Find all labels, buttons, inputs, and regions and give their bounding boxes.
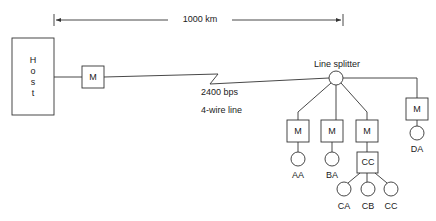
host-modem-label: M	[89, 73, 97, 82]
concentrator-label: CC	[362, 158, 375, 167]
link-speed-label: 2400 bps	[201, 88, 238, 97]
line-splitter-label: Line splitter	[314, 60, 360, 69]
host-letter: s	[31, 78, 36, 87]
modem-aa-label: M	[294, 127, 302, 136]
host-letter: H	[30, 56, 37, 65]
modem-cc-label: M	[363, 127, 371, 136]
modem-da-label: M	[413, 105, 421, 114]
terminal-aa-label: AA	[292, 171, 304, 180]
terminal-ca-label: CA	[338, 202, 351, 211]
terminal-cb-label: CB	[362, 202, 375, 211]
terminal-da-label: DA	[411, 145, 424, 154]
host-letter: o	[30, 67, 35, 76]
host-letter: t	[32, 89, 35, 98]
modem-ba-label: M	[328, 127, 336, 136]
distance-label: 1000 km	[183, 15, 218, 24]
link-type-label: 4-wire line	[201, 106, 242, 115]
terminal-cc-label: CC	[385, 202, 398, 211]
terminal-ba-label: BA	[326, 171, 338, 180]
